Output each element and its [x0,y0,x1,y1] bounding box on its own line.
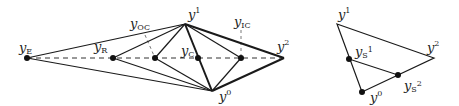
label-y1: y1 [187,6,200,22]
label-yC: yC [180,43,194,59]
simplex-diagram-canvas: yE yR yOC yC yIC y1 y2 y0 y1 y2 y0 yS1 y… [0,0,459,106]
point-yIC [238,55,244,61]
point-yR [110,55,116,61]
left-diagram: yE yR yOC yC yIC y1 y2 y0 [18,6,289,104]
label-yS2: yS2 [403,78,422,94]
label-right-y2: y2 [426,39,439,55]
label-right-y1: y1 [337,6,350,22]
label-yE: yE [18,40,32,56]
point-yS1 [346,56,352,62]
simplex-diagrams: yE yR yOC yC yIC y1 y2 y0 y1 y2 y0 yS1 y… [0,0,459,106]
label-yIC: yIC [233,14,251,30]
label-yOC: yOC [129,16,150,32]
label-y2: y2 [276,38,289,54]
label-y0: y0 [218,88,231,104]
point-yOC [152,55,158,61]
point-y0-right [359,89,365,95]
point-yS2 [395,72,401,78]
right-diagram: y1 y2 y0 yS1 yS2 [337,6,439,105]
point-yC [195,55,201,61]
label-yS1: yS1 [354,44,373,60]
label-right-y0: y0 [369,89,382,105]
